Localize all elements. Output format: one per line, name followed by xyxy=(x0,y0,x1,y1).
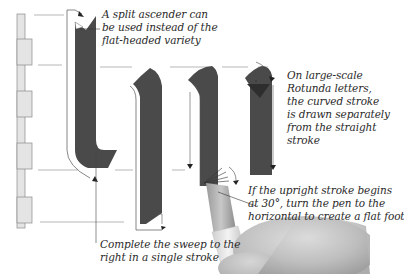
annotation-line: stroke xyxy=(287,134,390,147)
annotation-line: If the upright stroke begins xyxy=(248,184,404,197)
annotation-line: Complete the sweep to the xyxy=(100,238,240,251)
annotation-line: horizontal to create a flat foot xyxy=(248,210,404,223)
letter-stroke-rotunda xyxy=(245,62,276,175)
arrowhead-icon xyxy=(187,164,193,169)
annotation-line: from the straight xyxy=(287,121,390,134)
annotation-line: flat-headed variety xyxy=(102,34,218,47)
annotation-split-ascender: A split ascender can be used instead of … xyxy=(102,8,218,47)
annotation-line: at 30°, turn the pen to the xyxy=(248,197,404,210)
nib-width-ladder xyxy=(17,14,32,228)
annotation-line: Rotunda letters, xyxy=(287,82,390,95)
annotation-line: be used instead of the xyxy=(102,21,218,34)
annotation-sweep: Complete the sweep to the right in a sin… xyxy=(100,238,240,264)
arrowhead-icon xyxy=(161,226,166,230)
arrowhead-icon xyxy=(233,180,239,185)
annotation-line: A split ascender can xyxy=(102,8,218,21)
annotation-line: the curved stroke xyxy=(287,95,390,108)
annotation-line: right in a single stroke xyxy=(100,251,240,264)
arrowhead-icon xyxy=(78,11,84,17)
letter-stroke-middle xyxy=(130,68,166,230)
annotation-upright: If the upright stroke begins at 30°, tur… xyxy=(248,184,404,223)
annotation-line: is drawn separately xyxy=(287,108,390,121)
annotation-rotunda: On large-scale Rotunda letters, the curv… xyxy=(287,69,390,147)
arrowhead-icon xyxy=(92,176,98,182)
annotation-line: On large-scale xyxy=(287,69,390,82)
letter-stroke-third xyxy=(187,66,239,186)
